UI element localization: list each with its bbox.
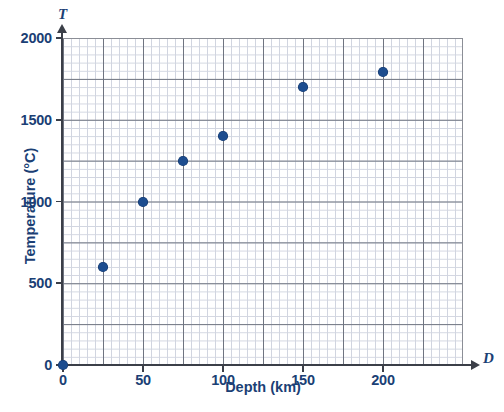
data-point	[179, 156, 188, 165]
y-tick-label: 0	[44, 357, 52, 373]
x-axis-symbol: D	[483, 350, 494, 367]
x-axis-line	[63, 364, 475, 366]
y-tick-mark	[56, 201, 63, 203]
x-tick-label: 50	[135, 372, 151, 388]
major-gridlines	[63, 39, 462, 365]
data-point	[299, 83, 308, 92]
chart-figure: T D 0500100015002000 050100150200 Depth …	[0, 0, 504, 412]
x-tick-mark	[382, 365, 384, 372]
y-axis-line	[61, 30, 63, 366]
x-tick-mark	[222, 365, 224, 372]
data-point	[379, 68, 388, 77]
data-point	[139, 197, 148, 206]
y-axis-arrow-icon	[57, 24, 67, 33]
data-point	[99, 262, 108, 271]
y-tick-mark	[56, 119, 63, 121]
y-axis-symbol: T	[58, 6, 67, 23]
plot-area	[63, 38, 463, 365]
x-tick-mark	[142, 365, 144, 372]
data-point	[59, 361, 68, 370]
x-tick-label: 0	[59, 372, 67, 388]
x-axis-title: Depth (km)	[225, 379, 301, 395]
y-tick-label: 2000	[21, 30, 52, 46]
data-point	[219, 132, 228, 141]
x-axis-arrow-icon	[471, 360, 480, 370]
x-tick-label: 200	[371, 372, 395, 388]
x-tick-mark	[302, 365, 304, 372]
y-tick-mark	[56, 282, 63, 284]
y-tick-mark	[56, 37, 63, 39]
y-axis-title: Temperature (°C)	[22, 126, 38, 286]
